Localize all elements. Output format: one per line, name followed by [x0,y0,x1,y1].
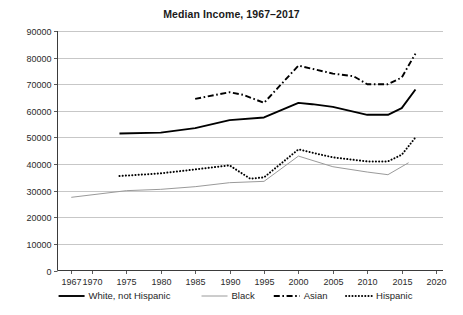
y-tick-label: 40000 [26,160,51,170]
x-tick-label: 1995 [254,277,274,287]
legend-item-black[interactable]: Black [202,290,255,301]
y-axis-ticks: 0100002000030000400005000060000700008000… [26,27,57,277]
x-tick-label: 1980 [151,277,171,287]
y-tick-label: 50000 [26,133,51,143]
y-tick-label: 20000 [26,213,51,223]
y-tick-label: 10000 [26,240,51,250]
x-tick-label: 1975 [116,277,136,287]
y-tick-label: 30000 [26,187,51,197]
x-tick-label: 1985 [185,277,205,287]
y-tick-label: 0 [46,267,51,277]
x-tick-label: 1967 [61,277,81,287]
x-tick-label: 2000 [288,277,308,287]
chart-legend: White, not HispanicBlackAsianHispanic [59,290,413,301]
y-tick-label: 80000 [26,54,51,64]
x-tick-label: 1970 [82,277,102,287]
y-tick-label: 60000 [26,107,51,117]
x-tick-label: 1990 [220,277,240,287]
x-tick-label: 2020 [426,277,446,287]
legend-item-white-not-hispanic[interactable]: White, not Hispanic [59,290,171,301]
median-income-chart: Median Income, 1967–2017 010000200003000… [0,0,463,315]
legend-item-hispanic[interactable]: Hispanic [346,290,413,301]
x-tick-label: 2015 [392,277,412,287]
y-tick-label: 90000 [26,27,51,37]
legend-label: Asian [304,290,328,301]
legend-item-asian[interactable]: Asian [274,290,328,301]
gridlines [58,32,444,245]
legend-label: Black [232,290,255,301]
data-series [71,54,415,198]
x-tick-label: 2005 [323,277,343,287]
legend-label: Hispanic [376,290,413,301]
x-axis-ticks: 1967197019751980198519901995200020052010… [61,271,446,288]
chart-plot-area: 0100002000030000400005000060000700008000… [0,0,463,315]
legend-label: White, not Hispanic [89,290,171,301]
series-line-asian [195,54,415,103]
y-tick-label: 70000 [26,80,51,90]
x-tick-label: 2010 [357,277,377,287]
